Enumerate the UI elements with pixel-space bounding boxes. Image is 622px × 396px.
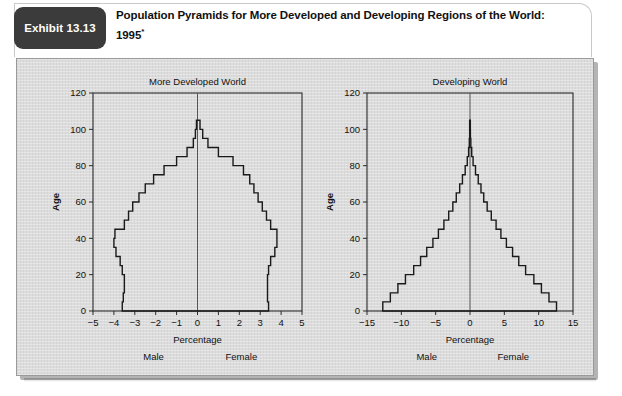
- exhibit-title-line2: 1995: [116, 28, 141, 40]
- exhibit-number-label: Exhibit 13.13: [24, 22, 96, 34]
- exhibit-title-footnote-marker: *: [141, 27, 144, 36]
- y-axis-tick-label: 120: [344, 87, 360, 98]
- x-axis-tick-label: 4: [278, 317, 283, 328]
- x-axis-tick-label: 1: [216, 317, 221, 328]
- x-axis-tick-label: −1: [171, 317, 182, 328]
- x-axis-tick-label: −5: [430, 317, 441, 328]
- y-axis-tick-label: 100: [70, 124, 86, 135]
- chart-title: Developing World: [433, 76, 508, 87]
- male-side-label: Male: [143, 351, 164, 362]
- chart-title: More Developed World: [149, 76, 246, 87]
- y-axis-tick-label: 60: [349, 196, 360, 207]
- chart-developing-world: Developing World−15−10−50510150204060801…: [303, 59, 594, 376]
- x-axis-tick-label: −10: [393, 317, 409, 328]
- x-axis-tick-label: −5: [88, 317, 99, 328]
- pyramid-plot: More Developed World−5−4−3−2−10123450204…: [17, 59, 307, 376]
- x-axis-tick-label: −15: [359, 317, 375, 328]
- y-axis-title: Age: [50, 193, 61, 211]
- x-axis-tick-label: −2: [150, 317, 161, 328]
- exhibit-number-tab: Exhibit 13.13: [14, 7, 106, 49]
- x-axis-tick-label: −3: [129, 317, 140, 328]
- female-side-label: Female: [226, 351, 258, 362]
- y-axis-tick-label: 120: [70, 87, 86, 98]
- y-axis-tick-label: 20: [349, 269, 360, 280]
- x-axis-tick-label: 15: [568, 317, 579, 328]
- y-axis-title: Age: [324, 193, 335, 211]
- x-axis-tick-label: 0: [195, 317, 200, 328]
- exhibit-title-line1: Population Pyramids for More Developed a…: [116, 9, 545, 21]
- x-axis-tick-label: 5: [502, 317, 507, 328]
- y-axis-tick-label: 60: [75, 196, 86, 207]
- x-axis-tick-label: 0: [467, 317, 472, 328]
- y-axis-tick-label: 20: [75, 269, 86, 280]
- chart-more-developed-world: More Developed World−5−4−3−2−10123450204…: [17, 59, 307, 376]
- population-pyramid-outline: [114, 120, 277, 311]
- y-axis-tick-label: 0: [81, 305, 86, 316]
- x-axis-title: Percentage: [173, 334, 222, 345]
- y-axis-tick-label: 0: [355, 305, 360, 316]
- figure-panel: More Developed World−5−4−3−2−10123450204…: [16, 58, 594, 376]
- x-axis-tick-label: 3: [258, 317, 263, 328]
- y-axis-tick-label: 40: [75, 233, 86, 244]
- y-axis-tick-label: 100: [344, 124, 360, 135]
- x-axis-tick-label: 2: [237, 317, 242, 328]
- female-side-label: Female: [497, 351, 529, 362]
- y-axis-tick-label: 80: [75, 160, 86, 171]
- card-bottom-shadow: [24, 378, 596, 382]
- page-title: Population Pyramids for More Developed a…: [116, 8, 586, 43]
- x-axis-title: Percentage: [446, 334, 495, 345]
- x-axis-tick-label: −4: [108, 317, 119, 328]
- y-axis-tick-label: 40: [349, 233, 360, 244]
- x-axis-tick-label: 10: [533, 317, 544, 328]
- exhibit-card: Exhibit 13.13 Population Pyramids for Mo…: [0, 0, 622, 396]
- male-side-label: Male: [416, 351, 437, 362]
- y-axis-tick-label: 80: [349, 160, 360, 171]
- pyramid-plot: Developing World−15−10−50510150204060801…: [303, 59, 594, 376]
